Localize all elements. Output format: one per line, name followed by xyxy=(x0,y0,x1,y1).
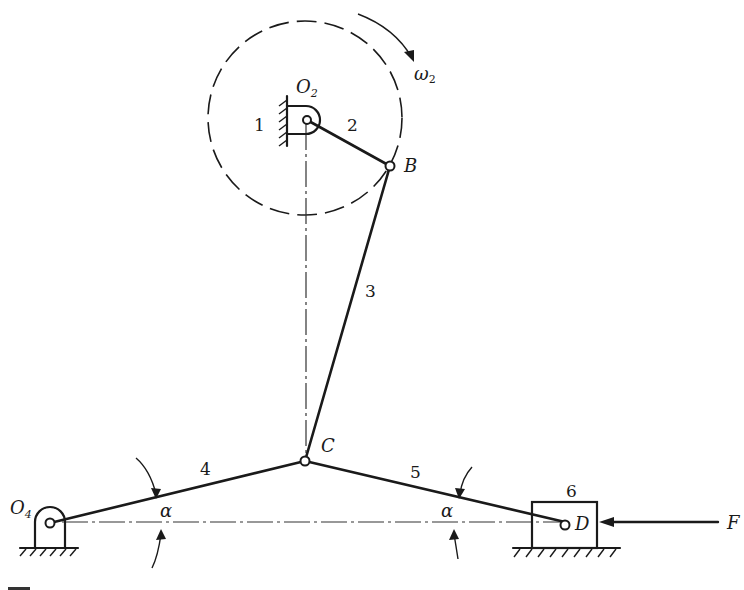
label-B: B xyxy=(403,155,417,176)
label-link-6: 6 xyxy=(566,481,577,501)
label-alpha-left: α xyxy=(160,500,172,521)
label-F: F xyxy=(726,512,741,533)
label-alpha-right: α xyxy=(441,500,453,521)
linkage-diagram: O2 B C O4 D ω2 F 1 2 3 4 5 6 α α xyxy=(0,0,744,590)
force-F-arrow xyxy=(599,517,718,527)
link-3-coupler xyxy=(305,166,390,461)
label-link-3: 3 xyxy=(365,281,376,301)
label-link-5: 5 xyxy=(410,462,421,482)
pin-O4 xyxy=(46,519,55,528)
pin-D xyxy=(561,521,570,530)
link-4 xyxy=(50,461,305,523)
label-link-1: 1 xyxy=(254,115,265,135)
label-D: D xyxy=(574,513,590,534)
omega2-rotation-arrow xyxy=(358,14,414,62)
pin-B xyxy=(386,162,395,171)
pin-O2 xyxy=(303,116,311,124)
label-O2: O2 xyxy=(296,76,318,100)
label-O4: O4 xyxy=(10,497,32,521)
link-5 xyxy=(305,461,565,522)
label-C: C xyxy=(321,435,335,456)
label-link-2: 2 xyxy=(347,115,358,135)
label-omega2: ω2 xyxy=(414,63,436,86)
ground-support-O2 xyxy=(279,96,320,146)
pin-C xyxy=(301,457,310,466)
label-link-4: 4 xyxy=(200,459,211,479)
slider-ground xyxy=(513,548,620,557)
